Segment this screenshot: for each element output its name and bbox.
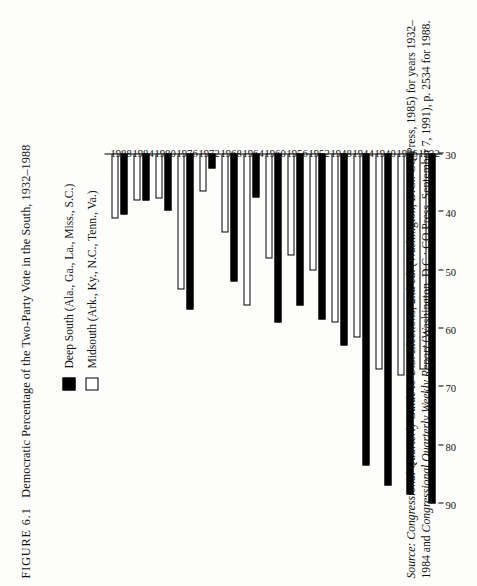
bar-deep-south-1948[interactable] <box>340 153 347 346</box>
bar-group-1956 <box>287 153 303 503</box>
bar-midsouth-1980[interactable] <box>155 153 162 198</box>
axis-tick-60 <box>438 327 443 328</box>
axis-tick-label-30: 30 <box>445 149 456 160</box>
bar-group-1964 <box>243 153 259 503</box>
axis-tick-label-60: 60 <box>445 324 456 335</box>
chart-legend: Deep South (Ala., Ga., La., Miss., S.C.)… <box>62 183 108 390</box>
bar-deep-south-1960[interactable] <box>274 153 281 322</box>
axis-tick-40 <box>438 210 443 211</box>
source-prefix: Source: <box>404 542 417 578</box>
bar-midsouth-1952[interactable] <box>309 153 316 270</box>
bar-midsouth-1944[interactable] <box>353 153 360 337</box>
legend-label-deep-south: Deep South (Ala., Ga., La., Miss., S.C.) <box>62 183 75 368</box>
bar-deep-south-1940[interactable] <box>384 153 391 486</box>
axis-tick-70 <box>438 385 443 386</box>
legend-item-deep-south: Deep South (Ala., Ga., La., Miss., S.C.) <box>62 183 75 390</box>
bar-midsouth-1964[interactable] <box>243 153 250 305</box>
axis-tick-label-90: 90 <box>445 499 456 510</box>
source-text-b: (Washington, D.C.: CQ Press, September 7… <box>419 20 432 345</box>
category-label-1972: 1972 <box>198 147 219 158</box>
axis-tick-label-50: 50 <box>445 266 456 277</box>
bar-midsouth-1956[interactable] <box>287 153 294 255</box>
bar-midsouth-1960[interactable] <box>265 153 272 258</box>
category-label-1980: 1980 <box>154 147 175 158</box>
bar-midsouth-1936[interactable] <box>397 153 404 375</box>
bar-deep-south-1968[interactable] <box>230 153 237 281</box>
bar-midsouth-1948[interactable] <box>331 153 338 322</box>
axis-tick-50 <box>438 269 443 270</box>
bar-group-1960 <box>265 153 281 503</box>
bar-deep-south-1988[interactable] <box>120 153 127 214</box>
bar-group-1980 <box>155 153 171 503</box>
bar-midsouth-1940[interactable] <box>375 153 382 369</box>
figure-container: FIGURE 6.1 Democratic Percentage of the … <box>0 0 477 586</box>
bar-midsouth-1984[interactable] <box>133 153 140 200</box>
legend-item-midsouth: Midsouth (Ark., Ky., N.C., Tenn., Va.) <box>85 183 98 390</box>
rotated-page-wrapper: FIGURE 6.1 Democratic Percentage of the … <box>0 0 477 586</box>
legend-swatch-filled-icon <box>62 377 75 390</box>
figure-number: FIGURE 6.1 <box>18 507 32 578</box>
category-label-1976: 1976 <box>176 147 197 158</box>
bar-midsouth-1968[interactable] <box>221 153 228 232</box>
axis-tick-label-70: 70 <box>445 382 456 393</box>
axis-tick-80 <box>438 444 443 445</box>
category-label-1988: 1988 <box>110 147 131 158</box>
category-label-1984: 1984 <box>132 147 153 158</box>
category-label-1956: 1956 <box>286 147 307 158</box>
source-title-b: Congressional Quarterly Weekly Report <box>419 345 432 532</box>
bar-deep-south-1976[interactable] <box>186 153 193 309</box>
source-title-a: Congressional Quarterly Guide to U.S. El… <box>404 307 417 540</box>
source-note: Source: Congressional Quarterly Guide to… <box>404 12 433 578</box>
category-label-1964: 1964 <box>242 147 263 158</box>
bar-group-1988 <box>111 153 127 503</box>
legend-label-midsouth: Midsouth (Ark., Ky., N.C., Tenn., Va.) <box>85 190 98 368</box>
bar-midsouth-1976[interactable] <box>177 153 184 289</box>
axis-tick-label-40: 40 <box>445 207 456 218</box>
category-label-1952: 1952 <box>308 147 329 158</box>
category-label-1968: 1968 <box>220 147 241 158</box>
bar-deep-south-1980[interactable] <box>164 153 171 210</box>
category-label-1948: 1948 <box>330 147 351 158</box>
bar-group-1968 <box>221 153 237 503</box>
legend-swatch-open-icon <box>85 377 98 390</box>
bar-deep-south-1944[interactable] <box>362 153 369 465</box>
bar-deep-south-1952[interactable] <box>318 153 325 319</box>
bar-deep-south-1956[interactable] <box>296 153 303 305</box>
page-title: FIGURE 6.1 Democratic Percentage of the … <box>18 144 33 578</box>
bar-group-1944 <box>353 153 369 503</box>
axis-tick-30 <box>438 152 443 153</box>
bar-midsouth-1972[interactable] <box>199 153 206 191</box>
category-label-1940: 1940 <box>374 147 395 158</box>
bar-group-1952 <box>309 153 325 503</box>
figure-title-text: Democratic Percentage of the Two-Party V… <box>18 144 32 497</box>
bar-midsouth-1988[interactable] <box>111 153 118 218</box>
axis-tick-label-80: 80 <box>445 441 456 452</box>
bar-group-1976 <box>177 153 193 503</box>
bar-deep-south-1964[interactable] <box>252 153 259 197</box>
bar-group-1940 <box>375 153 391 503</box>
bar-group-1948 <box>331 153 347 503</box>
bar-chart-plot-area: 1932193619401944194819521956196019641968… <box>108 153 438 503</box>
category-label-1944: 1944 <box>352 147 373 158</box>
bar-group-1972 <box>199 153 215 503</box>
axis-tick-90 <box>438 502 443 503</box>
bar-group-1984 <box>133 153 149 503</box>
bar-deep-south-1984[interactable] <box>142 153 149 200</box>
category-label-1960: 1960 <box>264 147 285 158</box>
